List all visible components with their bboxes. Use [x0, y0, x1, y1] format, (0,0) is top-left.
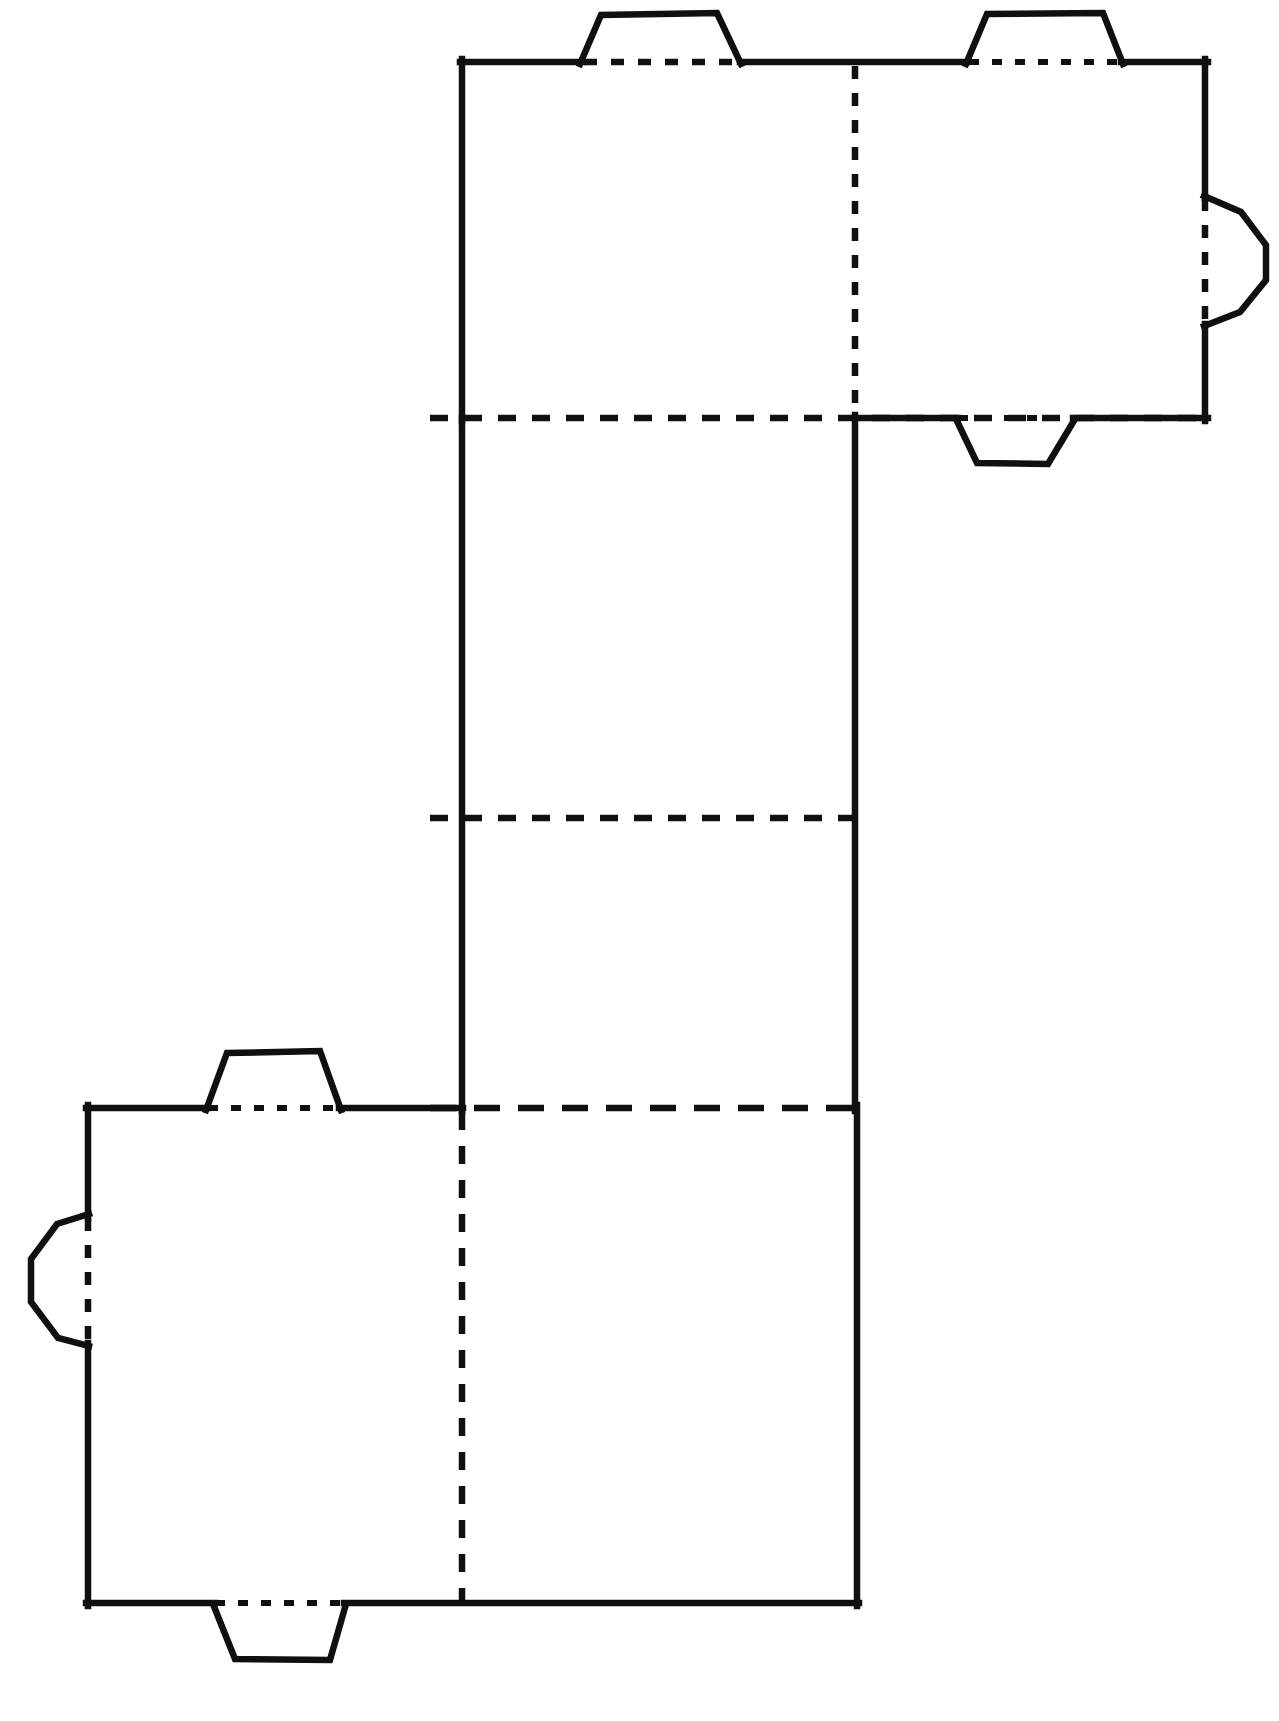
panel-middle-lower — [460, 818, 855, 1108]
net-drawing-canvas — [0, 0, 1279, 1721]
glue-tab-bottom — [213, 1604, 346, 1660]
panel-middle-upper — [460, 418, 855, 818]
panel-top-left — [460, 62, 855, 418]
glue-tab-above-bottom-left — [206, 1051, 341, 1110]
panel-bottom-right — [462, 1108, 857, 1603]
panel-fills — [88, 62, 1205, 1603]
glue-tab-right-side — [1204, 196, 1266, 326]
panel-bottom-left — [88, 1108, 462, 1603]
panel-top-right — [855, 62, 1205, 418]
glue-tab-top-right — [966, 13, 1123, 64]
glue-tab-top-left — [580, 13, 741, 64]
glue-tab-left-side — [31, 1214, 89, 1346]
papercraft-net-diagram — [0, 0, 1279, 1721]
glue-tab-under-top-right — [956, 419, 1075, 464]
